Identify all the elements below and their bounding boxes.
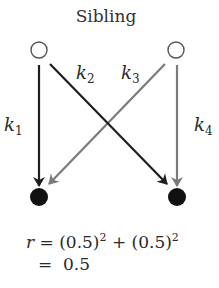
edge-k2-label: k2 <box>76 62 95 86</box>
child-right-node <box>168 188 186 206</box>
parent-right-node <box>168 42 184 58</box>
edge-k1-label: k1 <box>4 114 23 138</box>
diagram-title: Sibling <box>76 6 137 26</box>
relatedness-formula-line1: r = (0.5)2 + (0.5)2 <box>26 231 179 252</box>
edge-k3-label: k3 <box>121 62 140 86</box>
edge-k4-label: k4 <box>194 114 213 138</box>
child-left-node <box>30 188 48 206</box>
relatedness-formula-line2: = 0.5 <box>38 254 90 274</box>
sibling-relatedness-diagram: Sibling k1 k2 k3 k4 r = (0.5)2 + (0.5)2 … <box>0 0 219 288</box>
parent-left-node <box>31 42 47 58</box>
